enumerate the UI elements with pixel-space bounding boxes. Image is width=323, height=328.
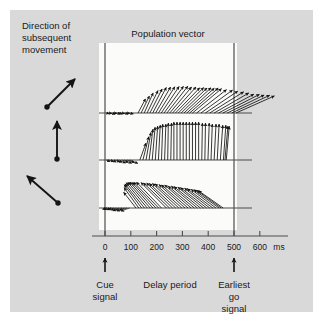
direction-key-dot-45 bbox=[44, 104, 49, 109]
direction-key-up-right bbox=[44, 79, 75, 110]
x-axis-tick-label: 600 bbox=[253, 242, 267, 252]
x-axis-tick-label: 400 bbox=[201, 242, 215, 252]
direction-key-dot-90 bbox=[54, 156, 59, 161]
earliest-go-label-line-2: go bbox=[229, 291, 240, 302]
x-axis-ticks bbox=[105, 231, 260, 236]
direction-key-arrow-135 bbox=[27, 176, 58, 203]
direction-key-arrow-45 bbox=[47, 79, 75, 107]
x-axis-tick-labels: 0100200300400500600 bbox=[103, 242, 268, 252]
direction-key-dot-135 bbox=[55, 200, 60, 205]
left-caption-line-3: movement bbox=[22, 44, 67, 55]
earliest-go-label-line-3: signal bbox=[222, 303, 247, 314]
left-caption-line-1: Direction of bbox=[22, 20, 70, 31]
x-axis-unit-label: ms bbox=[273, 242, 284, 252]
cue-label-line-1: Cue bbox=[96, 279, 113, 290]
x-axis-tick-label: 200 bbox=[150, 242, 164, 252]
x-axis-tick-label: 500 bbox=[227, 242, 241, 252]
x-axis-tick-label: 100 bbox=[124, 242, 138, 252]
delay-period-label: Delay period bbox=[143, 279, 196, 290]
x-axis-tick-label: 0 bbox=[103, 242, 108, 252]
left-caption-line-2: subsequent bbox=[22, 32, 71, 43]
population-vector-arrow bbox=[236, 96, 274, 113]
figure-root: Population vector Direction of subsequen… bbox=[0, 0, 323, 328]
plot-title: Population vector bbox=[131, 28, 204, 39]
direction-key-up bbox=[54, 121, 59, 162]
cue-label-line-2: signal bbox=[93, 291, 118, 302]
earliest-go-label-line-1: Earliest bbox=[218, 279, 250, 290]
x-axis-tick-label: 300 bbox=[175, 242, 189, 252]
direction-key-up-left bbox=[27, 176, 61, 206]
population-vector-figure: Population vector Direction of subsequen… bbox=[0, 0, 323, 328]
population-vector-arrow bbox=[232, 95, 270, 113]
